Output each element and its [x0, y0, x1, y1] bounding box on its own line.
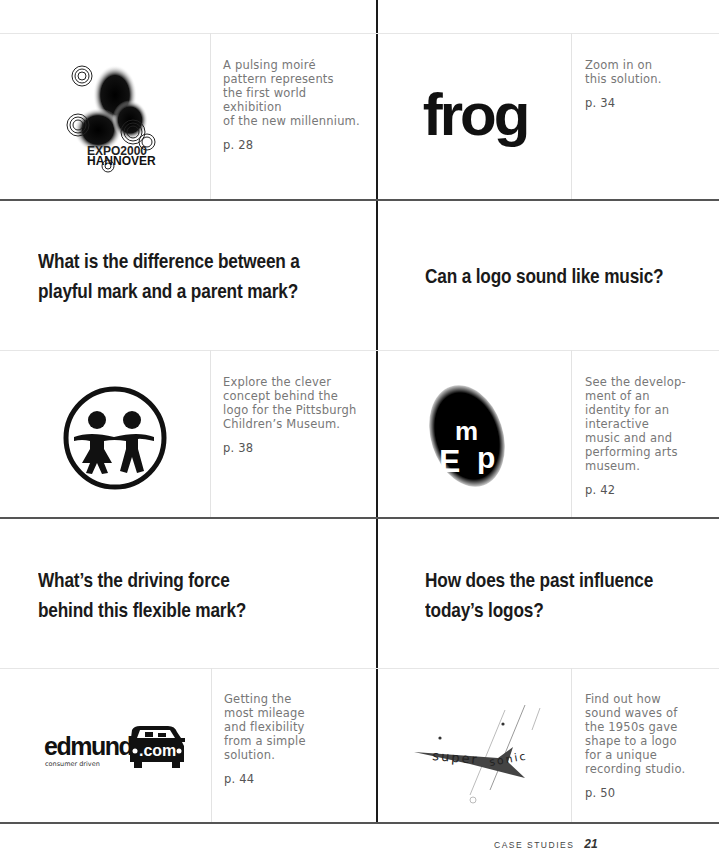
expo-2000-hannover-logo: EXPO2000 HANNOVER — [40, 50, 180, 180]
page-footer: CASE STUDIES 21 — [494, 837, 598, 851]
section-label: CASE STUDIES — [494, 840, 574, 850]
page-reference[interactable]: p. 50 — [585, 786, 715, 800]
section-question: What’s the driving force behind this fle… — [38, 565, 246, 625]
page-reference[interactable]: p. 34 — [585, 96, 710, 110]
cell-divider — [571, 350, 572, 517]
page-reference[interactable]: p. 44 — [224, 772, 364, 786]
page-number: 21 — [584, 837, 597, 851]
section-question: Can a logo sound like music? — [425, 261, 663, 291]
svg-text:p: p — [477, 441, 495, 474]
svg-text:HANNOVER: HANNOVER — [87, 154, 156, 168]
page-reference[interactable]: p. 38 — [223, 441, 368, 455]
row-rule-dark — [0, 517, 719, 519]
case-description: Explore the clever concept behind the lo… — [223, 375, 368, 455]
row-rule-light — [0, 350, 719, 351]
svg-text:E: E — [439, 443, 460, 479]
case-description: A pulsing moiré pattern represents the f… — [223, 58, 368, 152]
case-description: Zoom in on this solution. p. 34 — [585, 58, 710, 110]
row-rule-dark — [0, 199, 719, 201]
row-rule-light — [0, 668, 719, 669]
emp-logo: m E p — [425, 380, 510, 495]
cell-divider — [571, 33, 572, 199]
svg-text:.com: .com — [139, 742, 176, 759]
cell-divider — [210, 33, 211, 199]
section-question: How does the past influence today’s logo… — [425, 565, 653, 625]
svg-text:consumer driven: consumer driven — [45, 760, 100, 768]
cell-divider — [210, 350, 211, 517]
frog-logo: frog — [400, 70, 550, 160]
pittsburgh-childrens-museum-logo — [55, 380, 175, 495]
page-reference[interactable]: p. 28 — [223, 138, 368, 152]
cell-divider — [211, 668, 212, 822]
svg-text:super: super — [432, 748, 480, 767]
case-description: See the develop- ment of an identity for… — [585, 375, 710, 497]
row-rule-dark — [0, 822, 719, 824]
center-divider — [376, 0, 378, 823]
cell-divider — [571, 668, 572, 822]
case-description: Getting the most mileage and flexibility… — [224, 692, 364, 786]
page-reference[interactable]: p. 42 — [585, 483, 710, 497]
case-description: Find out how sound waves of the 1950s ga… — [585, 692, 715, 800]
section-question: What is the difference between a playful… — [38, 246, 300, 306]
svg-text:m: m — [455, 416, 478, 446]
supersonic-logo: super sonic — [410, 700, 560, 810]
row-rule-light — [0, 33, 719, 34]
edmunds-com-logo: edmunds consumer driven .com — [44, 724, 189, 774]
